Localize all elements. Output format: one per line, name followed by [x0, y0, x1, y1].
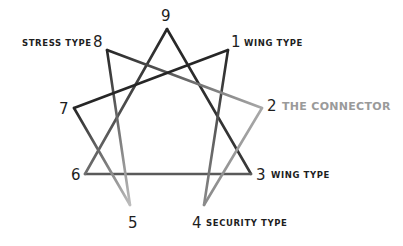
point-4-number: 4 — [192, 214, 202, 232]
wing-type-3-label: WING TYPE — [271, 170, 330, 180]
point-labels: 9 STRESS TYPE 8 1 WING TYPE 7 2 THE CONN… — [22, 7, 391, 232]
point-6-number: 6 — [71, 166, 81, 184]
hexad-lines — [74, 50, 262, 205]
wing-type-1-label: WING TYPE — [244, 38, 303, 48]
security-type-label: SECURITY TYPE — [206, 218, 287, 228]
point-3-number: 3 — [256, 166, 266, 184]
connector-label: THE CONNECTOR — [282, 100, 391, 113]
point-8-number: 8 — [93, 33, 103, 51]
point-2-number: 2 — [267, 97, 277, 115]
stress-type-label: STRESS TYPE — [22, 38, 92, 48]
enneagram-diagram: 9 STRESS TYPE 8 1 WING TYPE 7 2 THE CONN… — [0, 0, 403, 246]
point-9-number: 9 — [161, 7, 171, 25]
point-7-number: 7 — [59, 100, 69, 118]
point-1-number: 1 — [231, 33, 241, 51]
point-5-number: 5 — [128, 214, 138, 232]
